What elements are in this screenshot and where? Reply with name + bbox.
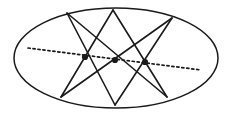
- intersection-node-q: [112, 57, 118, 63]
- geometry-figure: [0, 0, 231, 115]
- geometry-canvas: [0, 0, 231, 115]
- intersection-node-p: [82, 54, 88, 60]
- intersection-node-r: [142, 59, 148, 65]
